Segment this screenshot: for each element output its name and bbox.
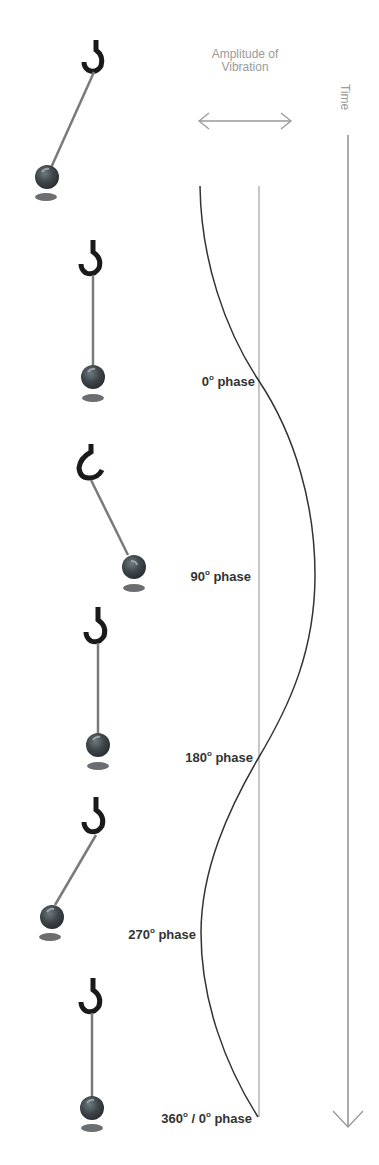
phase-label-90: 90o phase xyxy=(190,568,251,584)
phase-suffix: phase xyxy=(155,927,196,942)
phase-label-270: 270o phase xyxy=(128,926,196,942)
amplitude-label: Amplitude of Vibration xyxy=(190,48,300,74)
ball-icon xyxy=(122,555,146,579)
hook-icon xyxy=(81,978,100,1012)
phase-label-0: 0o phase xyxy=(202,373,255,389)
phase-label-180: 180o phase xyxy=(185,749,253,765)
hook-icon xyxy=(81,240,100,274)
pendulum-1 xyxy=(35,40,102,201)
phase-degree: 270 xyxy=(128,927,150,942)
phase-suffix: phase xyxy=(210,569,251,584)
vibration-curve xyxy=(200,186,315,1117)
amplitude-arrow xyxy=(199,113,291,129)
phase-alt-degree: / 0 xyxy=(188,1111,206,1126)
phase-degree: 0 xyxy=(202,374,209,389)
pendulum-3 xyxy=(79,444,146,592)
phase-suffix: phase xyxy=(211,1111,252,1126)
pendulum-6 xyxy=(80,978,104,1132)
pendulum-4 xyxy=(86,607,110,770)
phase-degree: 360 xyxy=(161,1111,183,1126)
phase-suffix: phase xyxy=(214,374,255,389)
phase-degree: 90 xyxy=(190,569,204,584)
hook-icon xyxy=(84,797,103,832)
phase-label-360: 360o / 0o phase xyxy=(161,1110,252,1126)
pendulum-5 xyxy=(39,797,103,941)
phase-suffix: phase xyxy=(212,750,253,765)
time-label: Time xyxy=(338,84,352,110)
hook-icon xyxy=(84,40,102,71)
hook-icon xyxy=(86,607,105,642)
pendulum-2 xyxy=(81,240,105,402)
time-arrow xyxy=(333,135,363,1127)
hook-icon xyxy=(79,444,102,478)
phase-degree: 180 xyxy=(185,750,207,765)
amplitude-label-line2: Vibration xyxy=(190,61,300,74)
